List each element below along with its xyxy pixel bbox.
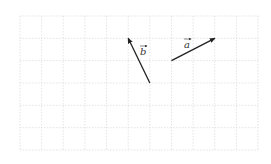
vector-a-label: a (184, 39, 190, 50)
vector-b-label: b (140, 46, 146, 57)
grid (20, 16, 258, 150)
vector-a-arrow (171, 38, 214, 60)
vector-a: a (171, 38, 214, 60)
vector-diagram: b a (0, 0, 271, 164)
